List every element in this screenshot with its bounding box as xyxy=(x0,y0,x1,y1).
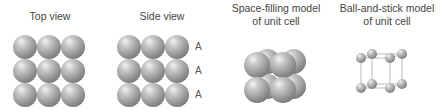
atom xyxy=(367,79,377,89)
atom xyxy=(397,49,407,59)
atom xyxy=(397,79,407,89)
atom xyxy=(385,53,395,63)
atom xyxy=(356,83,366,93)
atom xyxy=(367,49,377,59)
atom xyxy=(385,83,395,93)
atom xyxy=(356,53,366,63)
